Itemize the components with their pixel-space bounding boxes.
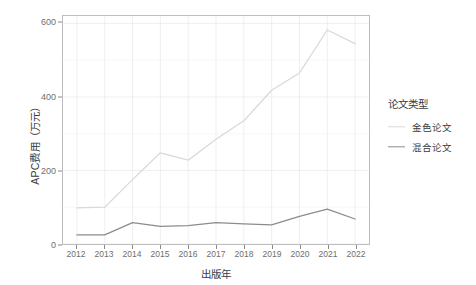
x-tick-label: 2021 <box>319 249 338 259</box>
x-tick-label: 2020 <box>291 249 310 259</box>
y-axis-title: APC费用（万元） <box>27 63 42 223</box>
x-axis-title: 出版年 <box>62 266 370 281</box>
plot-panel <box>62 15 370 245</box>
legend-item-label: 混合论文 <box>412 140 452 154</box>
x-tick-label: 2019 <box>263 249 282 259</box>
x-tick-mark <box>356 245 357 249</box>
x-tick-label: 2022 <box>347 249 366 259</box>
x-tick-label: 2017 <box>207 249 226 259</box>
x-tick-label: 2012 <box>67 249 86 259</box>
x-tick-mark <box>76 245 77 249</box>
legend-item-2[interactable]: 混合论文 <box>388 140 474 154</box>
x-tick-mark <box>188 245 189 249</box>
x-tick-label: 2013 <box>95 249 114 259</box>
y-tick-label: 400 <box>26 92 56 102</box>
x-tick-label: 2015 <box>151 249 170 259</box>
y-tick-mark <box>58 170 62 171</box>
x-tick-mark <box>244 245 245 249</box>
x-tick-mark <box>328 245 329 249</box>
x-tick-mark <box>272 245 273 249</box>
legend-title: 论文类型 <box>388 96 474 111</box>
legend-item-label: 金色论文 <box>412 120 452 134</box>
legend-key-line-icon <box>388 123 405 132</box>
x-tick-mark <box>160 245 161 249</box>
x-tick-mark <box>216 245 217 249</box>
y-tick-label: 600 <box>26 17 56 27</box>
y-tick-label: 0 <box>26 240 56 250</box>
y-tick-mark <box>58 245 62 246</box>
x-tick-mark <box>132 245 133 249</box>
y-tick-mark <box>58 22 62 23</box>
line-chart: APC费用（万元） 0200400600 2012201320142015201… <box>0 0 476 285</box>
x-tick-label: 2014 <box>123 249 142 259</box>
legend-item-1[interactable]: 金色论文 <box>388 120 474 134</box>
y-tick-label: 200 <box>26 166 56 176</box>
x-tick-mark <box>104 245 105 249</box>
plot-area <box>63 16 369 244</box>
x-tick-label: 2018 <box>235 249 254 259</box>
legend: 论文类型 金色论文混合论文 <box>388 96 474 160</box>
x-tick-mark <box>300 245 301 249</box>
legend-key-line-icon <box>388 143 405 152</box>
legend-entries: 金色论文混合论文 <box>388 120 474 154</box>
x-tick-label: 2016 <box>179 249 198 259</box>
y-tick-mark <box>58 96 62 97</box>
